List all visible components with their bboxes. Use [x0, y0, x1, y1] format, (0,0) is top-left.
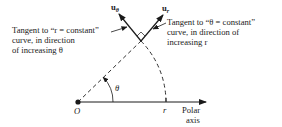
left-annotation-line-2: curve, in direction	[12, 35, 75, 45]
right-annotation-line-2: curve, in direction of	[167, 27, 239, 37]
polar-axis-label-2: axis	[186, 115, 200, 125]
polar-axis-label-1: Polar	[182, 105, 200, 115]
right-angle-marker	[137, 32, 145, 36]
r-label: r	[163, 105, 167, 115]
u-theta-label: uθ	[111, 2, 120, 13]
left-leader	[111, 27, 127, 32]
u-r-label: ur	[162, 3, 170, 14]
polar-unit-vectors-diagram: uθ ur Tangent to “r = constant” curve, i…	[0, 0, 282, 127]
origin-point	[75, 99, 80, 104]
right-annotation-line-1: Tangent to “θ = constant”	[167, 17, 255, 27]
right-annotation-line-3: increasing r	[167, 37, 207, 47]
constant-r-arc	[141, 41, 166, 102]
theta-arc	[103, 77, 113, 102]
radius-line	[78, 41, 141, 102]
left-annotation-line-3: of increasing θ	[12, 45, 63, 55]
u-theta-vector	[119, 14, 141, 41]
u-r-vector	[141, 15, 163, 41]
origin-label: O	[74, 106, 80, 116]
theta-label: θ	[115, 83, 120, 93]
left-annotation-line-1: Tangent to “r = constant”	[12, 25, 99, 35]
